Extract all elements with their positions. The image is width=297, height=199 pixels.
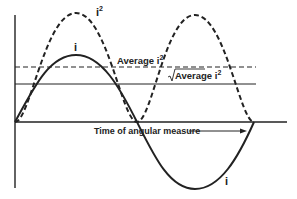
rms-label: Average i2 [175,69,221,81]
time-axis-label: Time of angular measure [94,126,200,136]
i-curve-top-label: i [74,41,77,53]
i-curve-bottom-label: i [225,175,228,187]
i-squared-label: i2 [96,5,103,18]
time-arrow-head-icon [240,129,247,134]
sine-rms-diagram: i2 i Average i2 Average i2 Time of angul… [0,0,297,199]
average-i-squared-label: Average i2 [117,54,163,66]
